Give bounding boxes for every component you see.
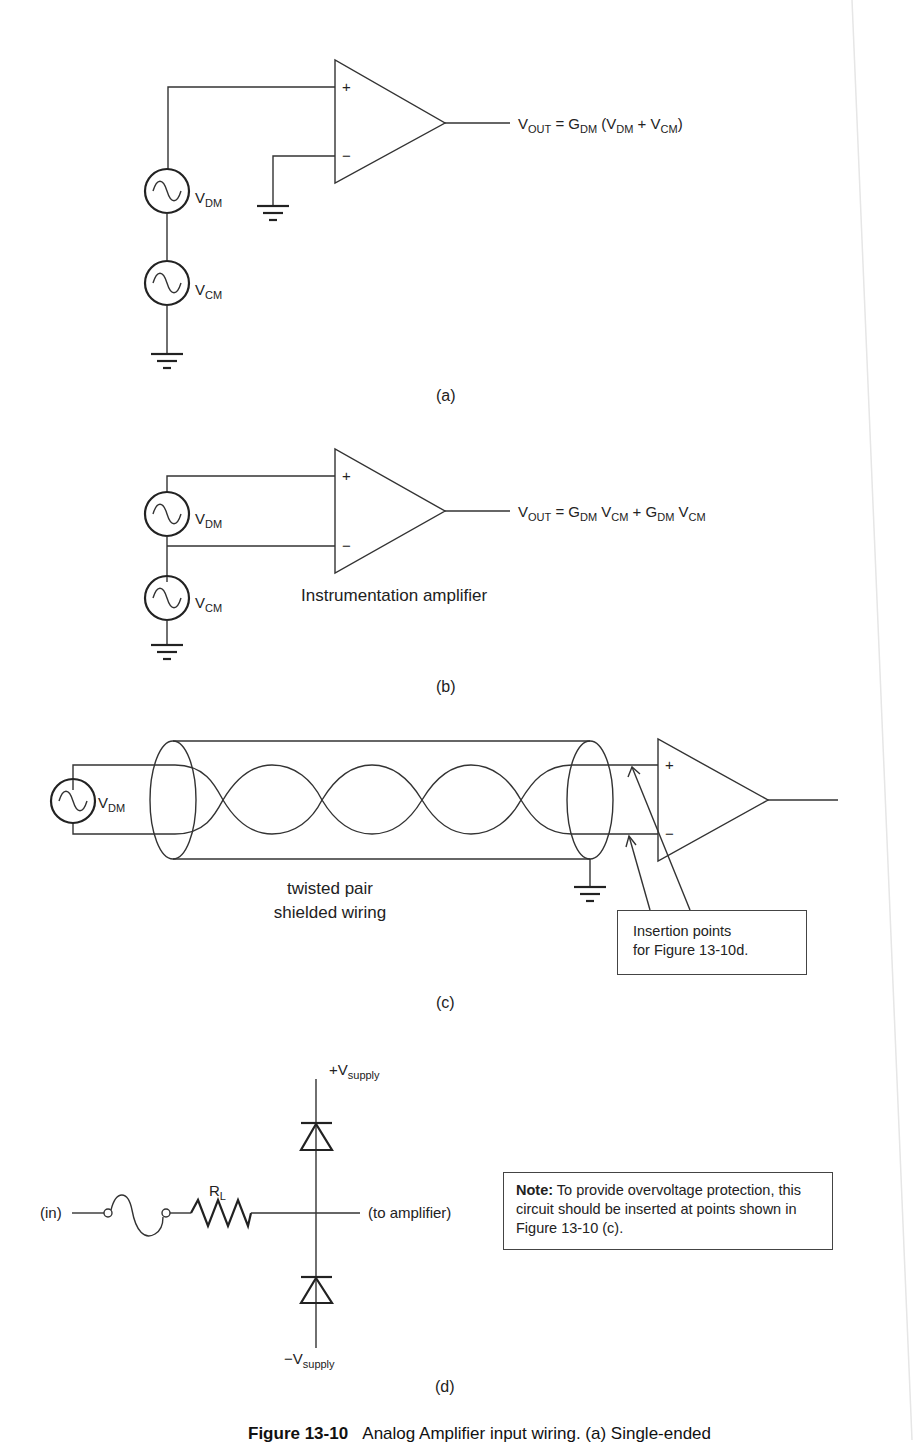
minus-input-label: − xyxy=(342,147,351,164)
overvoltage-note: Note: To provide overvoltage protection,… xyxy=(503,1172,833,1250)
negative-supply-label: −Vsupply xyxy=(284,1350,335,1370)
wire-plus-input xyxy=(167,476,335,492)
cable-label-line2: shielded wiring xyxy=(230,901,430,925)
callout-line1: Insertion points xyxy=(633,922,806,941)
op-amp-icon xyxy=(658,739,768,861)
ground-icon xyxy=(151,645,183,659)
label-vdm: VDM xyxy=(195,510,222,530)
minus-input-label: − xyxy=(665,825,674,842)
input-label: (in) xyxy=(40,1204,62,1221)
panel-label-d: (d) xyxy=(435,1378,455,1395)
output-equation-a: VOUT = GDM (VDM + VCM) xyxy=(518,115,683,135)
label-vcm: VCM xyxy=(195,594,222,614)
figure-number: Figure 13-10 xyxy=(248,1424,348,1443)
minus-input-label: − xyxy=(342,537,351,554)
plus-input-label: + xyxy=(665,756,674,773)
shield-cable-icon xyxy=(150,741,613,859)
ac-source-vcm-icon xyxy=(145,261,189,305)
ground-icon xyxy=(257,206,289,220)
resistor-icon xyxy=(191,1200,251,1226)
note-heading: Note: xyxy=(516,1182,553,1198)
ac-source-vcm-icon xyxy=(145,576,189,620)
wire-minus-input xyxy=(273,156,335,206)
wire-source-top xyxy=(73,765,150,790)
ac-source-vdm-icon xyxy=(145,169,189,213)
instrumentation-amp-icon xyxy=(335,449,445,573)
panel-b: VDM VCM + − VOUT = GDM VCM + GDM VCM (b) xyxy=(145,449,706,695)
plus-input-label: + xyxy=(342,467,351,484)
output-equation-b: VOUT = GDM VCM + GDM VCM xyxy=(518,503,706,523)
callout-line2: for Figure 13-10d. xyxy=(633,941,806,960)
panel-label-c: (c) xyxy=(436,994,455,1011)
plus-input-label: + xyxy=(342,78,351,95)
positive-supply-label: +Vsupply xyxy=(329,1061,380,1081)
cable-label: twisted pair shielded wiring xyxy=(230,877,430,925)
panel-label-a: (a) xyxy=(436,387,456,404)
label-vdm: VDM xyxy=(98,794,125,814)
cable-label-line1: twisted pair xyxy=(230,877,430,901)
wire-source-bottom xyxy=(73,822,150,834)
figure-caption: Figure 13-10 Analog Amplifier input wiri… xyxy=(248,1424,711,1444)
instrumentation-amplifier-label: Instrumentation amplifier xyxy=(301,586,487,606)
panel-label-b: (b) xyxy=(436,678,456,695)
ac-source-vdm-icon xyxy=(145,492,189,536)
output-label: (to amplifier) xyxy=(368,1204,451,1221)
panel-d: (in) RL (to amplifier) +Vsupply −Vsupply… xyxy=(40,1061,455,1395)
caption-text: Analog Amplifier input wiring. (a) Singl… xyxy=(362,1424,711,1443)
ground-icon xyxy=(574,887,606,901)
twisted-pair-icon xyxy=(150,765,658,834)
note-text: To provide overvoltage protection, this … xyxy=(516,1182,801,1236)
label-vdm: VDM xyxy=(195,189,222,209)
insertion-points-callout: Insertion points for Figure 13-10d. xyxy=(617,910,807,975)
fuse-icon xyxy=(104,1195,170,1236)
ground-icon xyxy=(151,354,183,368)
label-vcm: VCM xyxy=(195,281,222,301)
panel-a: VDM VCM + − VOUT = GDM (VDM + VCM) (a) xyxy=(145,60,683,404)
op-amp-icon xyxy=(335,60,445,183)
